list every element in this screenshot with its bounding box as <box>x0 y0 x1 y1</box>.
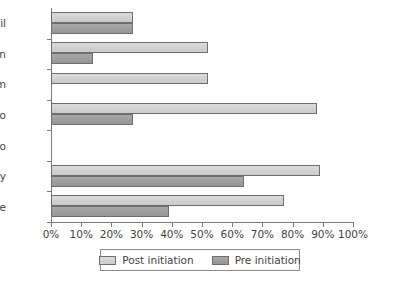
bar-post-initiation[interactable] <box>51 195 284 206</box>
bar-pre-initiation[interactable] <box>51 206 169 217</box>
bar-post-initiation[interactable] <box>51 42 208 53</box>
y-axis-category-label: Joe <box>0 201 6 213</box>
x-axis-tick-label: 10% <box>70 228 93 241</box>
x-axis-tick <box>323 223 324 227</box>
legend-label-post-initiation: Post initiation <box>122 254 193 266</box>
x-axis-tick <box>293 223 294 227</box>
legend-label-pre-initiation: Pre initiation <box>235 254 301 266</box>
plot-area: GailKevinTimLeoMarcoFreddyJoe <box>51 8 353 222</box>
bar-chart: GailKevinTimLeoMarcoFreddyJoe 0%10%20%30… <box>0 0 393 284</box>
bar-post-initiation[interactable] <box>51 73 208 84</box>
y-axis-category-label: Kevin <box>0 48 6 60</box>
x-axis-tick-label: 60% <box>221 228 244 241</box>
x-axis-tick-label: 100% <box>338 228 368 241</box>
legend-item-post-initiation[interactable]: Post initiation <box>99 254 193 266</box>
x-axis-tick-label: 40% <box>160 228 183 241</box>
chart-legend: Post initiation Pre initiation <box>100 249 300 271</box>
x-axis-tick <box>172 223 173 227</box>
x-axis-tick-label: 80% <box>281 228 304 241</box>
bar-pre-initiation[interactable] <box>51 53 93 64</box>
category-row: Gail <box>51 8 353 39</box>
bar-pre-initiation[interactable] <box>51 176 244 187</box>
legend-item-pre-initiation[interactable]: Pre initiation <box>212 254 301 266</box>
category-row: Marco <box>51 130 353 161</box>
x-axis-tick <box>142 223 143 227</box>
y-axis-category-label: Gail <box>0 17 6 29</box>
category-row: Kevin <box>51 39 353 70</box>
x-axis-tick <box>51 223 52 227</box>
y-axis-category-label: Leo <box>0 109 6 121</box>
x-axis-tick <box>353 223 354 227</box>
x-axis-tick-label: 30% <box>130 228 153 241</box>
x-axis-tick-label: 20% <box>100 228 123 241</box>
x-axis-tick-label: 90% <box>311 228 334 241</box>
x-axis-tick <box>262 223 263 227</box>
legend-swatch-pre-initiation-icon <box>212 256 229 265</box>
x-axis-tick-label: 0% <box>43 228 60 241</box>
y-axis-category-label: Tim <box>0 78 6 90</box>
bar-pre-initiation[interactable] <box>51 114 133 125</box>
category-row: Freddy <box>51 161 353 192</box>
category-row: Leo <box>51 100 353 131</box>
x-axis-tick <box>202 223 203 227</box>
x-axis-tick <box>232 223 233 227</box>
legend-swatch-post-initiation-icon <box>99 256 116 265</box>
y-axis-category-label: Freddy <box>0 170 6 182</box>
bar-post-initiation[interactable] <box>51 165 320 176</box>
bar-post-initiation[interactable] <box>51 12 133 23</box>
x-axis-tick <box>81 223 82 227</box>
bar-pre-initiation[interactable] <box>51 23 133 34</box>
y-axis-category-label: Marco <box>0 140 6 152</box>
x-axis-tick <box>111 223 112 227</box>
x-axis-tick-label: 50% <box>190 228 213 241</box>
x-axis-tick-label: 70% <box>251 228 274 241</box>
bar-post-initiation[interactable] <box>51 103 317 114</box>
category-row: Joe <box>51 191 353 222</box>
category-row: Tim <box>51 69 353 100</box>
